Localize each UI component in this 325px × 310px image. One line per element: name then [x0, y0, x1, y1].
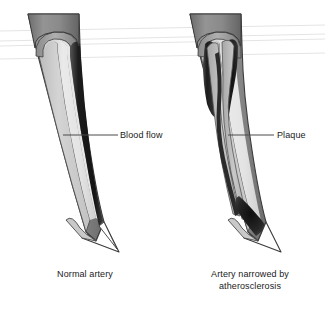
- narrowed-artery-caption: Artery narrowed by atherosclerosis: [185, 268, 315, 292]
- narrowed-artery-graphic: [190, 14, 281, 252]
- narrowed-artery-caption-line-2: atherosclerosis: [185, 280, 315, 292]
- blood-flow-label: Blood flow: [120, 130, 163, 140]
- normal-artery-caption: Normal artery: [20, 268, 150, 280]
- normal-artery-graphic: [28, 14, 119, 252]
- normal-artery-caption-line-1: Normal artery: [20, 268, 150, 280]
- artery-illustration: Blood flow Plaque Normal artery Artery n…: [0, 0, 325, 310]
- artery-diagram-svg: [0, 0, 325, 310]
- plaque-label: Plaque: [277, 130, 306, 140]
- narrowed-artery-caption-line-1: Artery narrowed by: [185, 268, 315, 280]
